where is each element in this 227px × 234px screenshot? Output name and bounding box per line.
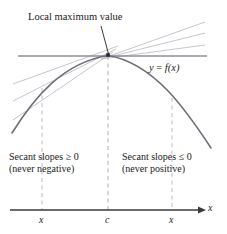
secant-line-left-3 xyxy=(13,46,118,84)
local-maximum-figure: Local maximum value y = f(x) Secant slop… xyxy=(0,0,227,234)
left-secant-annotation: Secant slopes ≥ 0 (never negative) xyxy=(9,151,79,174)
leader-line xyxy=(101,26,109,54)
function-equation-label: y = f(x) xyxy=(149,62,179,74)
right-secant-annotation-line1: Secant slopes ≤ 0 xyxy=(122,151,192,163)
secant-line-right-1 xyxy=(101,22,205,59)
left-secant-annotation-line2: (never negative) xyxy=(9,163,79,175)
function-label-arg: (x) xyxy=(168,62,180,73)
right-secant-annotation: Secant slopes ≤ 0 (never positive) xyxy=(122,151,192,174)
function-label-equals: = xyxy=(154,62,165,73)
x-tick-label-left: x xyxy=(39,214,43,226)
x-tick-label-right: x xyxy=(169,214,173,226)
point-marker-icon xyxy=(106,53,110,57)
x-tick-label-c: c xyxy=(105,214,109,226)
left-secant-annotation-line1: Secant slopes ≥ 0 xyxy=(9,151,79,163)
local-maximum-annotation: Local maximum value xyxy=(28,11,122,23)
x-axis-label: x xyxy=(208,202,212,214)
figure-canvas xyxy=(0,0,227,234)
dashed-reference-lines-group xyxy=(42,56,172,210)
secant-lines-right-group xyxy=(101,22,205,59)
right-secant-annotation-line2: (never positive) xyxy=(122,163,192,175)
arrow-right-icon xyxy=(198,206,206,213)
